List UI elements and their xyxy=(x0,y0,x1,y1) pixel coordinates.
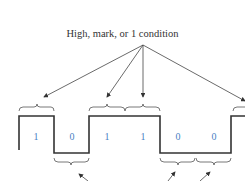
brace-bit-4 xyxy=(125,104,160,111)
arrow-to-next-high xyxy=(143,45,245,101)
waveform-diagram: 1 0 1 1 0 0 xyxy=(0,0,245,181)
top-arrows xyxy=(44,45,245,101)
brace-bit-5 xyxy=(160,158,195,165)
lower-braces xyxy=(54,158,231,165)
upper-braces xyxy=(19,104,245,111)
brace-bit-3 xyxy=(89,104,125,111)
arrow-to-bit-5 xyxy=(168,172,175,181)
bit-label: 0 xyxy=(70,131,75,142)
bit-label: 1 xyxy=(105,131,110,142)
bit-label: 0 xyxy=(176,131,181,142)
brace-bit-2 xyxy=(54,158,89,165)
brace-bit-6 xyxy=(196,158,231,165)
bottom-arrows xyxy=(79,172,210,181)
brace-next xyxy=(233,107,245,111)
bit-label: 1 xyxy=(141,131,146,142)
arrow-to-bit-1 xyxy=(44,45,143,97)
arrow-to-bit-6 xyxy=(200,172,210,181)
bit-label: 1 xyxy=(34,131,39,142)
arrow-to-bit-3 xyxy=(107,45,143,97)
bit-label: 0 xyxy=(212,131,217,142)
bit-labels: 1 0 1 1 0 0 xyxy=(34,131,217,142)
arrow-to-bit-2 xyxy=(79,174,88,181)
brace-bit-1 xyxy=(19,104,54,111)
